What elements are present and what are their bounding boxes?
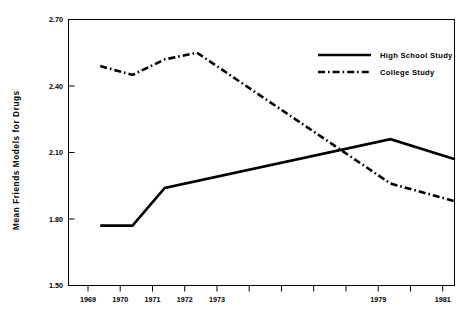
series-high-school-study [100,139,455,225]
legend-label-college-study: College Study [380,68,435,77]
y-tick-label-180: 1.80 [49,215,63,224]
y-tick-label-150: 1.50 [49,281,63,290]
y-axis-ticks [69,20,75,286]
y-tick-label-270: 2.70 [49,15,63,24]
y-tick-label-210: 2.10 [49,148,63,157]
x-tick-label-1970: 1970 [112,295,128,304]
chart-figure: 2.70 2.40 2.10 1.80 1.50 Mean Friends Mo… [0,0,471,316]
legend-label-high-school-study: High School Study [380,51,453,60]
x-tick-label-1971: 1971 [145,295,161,304]
x-axis-ticks [88,286,443,292]
x-tick-label-1969: 1969 [80,295,96,304]
x-tick-label-1973: 1973 [209,295,225,304]
line-chart: 2.70 2.40 2.10 1.80 1.50 Mean Friends Mo… [0,0,471,316]
x-tick-label-1972: 1972 [177,295,193,304]
y-tick-label-240: 2.40 [49,82,63,91]
chart-legend: High School Study College Study [318,51,453,77]
y-axis-title: Mean Friends Models for Drugs [12,90,21,230]
x-tick-label-1979: 1979 [370,295,386,304]
x-tick-label-1981: 1981 [435,295,451,304]
